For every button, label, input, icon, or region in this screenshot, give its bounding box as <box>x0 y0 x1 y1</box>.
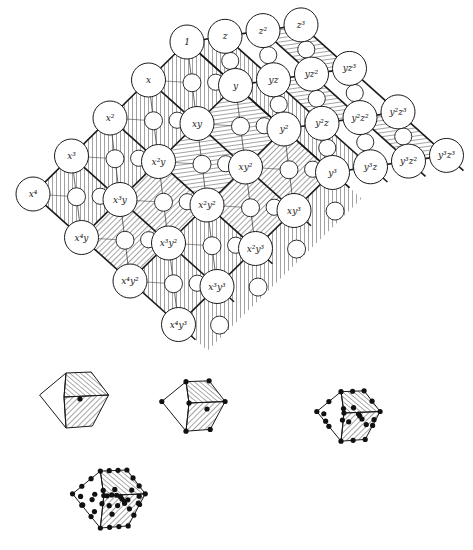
lattice-dot <box>186 400 191 405</box>
node-label: x²y³ <box>247 244 265 254</box>
monomial-node: x³ <box>55 139 89 173</box>
small-node <box>270 96 287 113</box>
lattice-dot <box>109 492 114 497</box>
lattice-dot <box>204 406 209 411</box>
monomial-node: y²z² <box>343 101 377 135</box>
lattice-dot <box>107 525 112 530</box>
monomial-node: x²y³ <box>239 232 273 266</box>
lattice-dot <box>105 493 110 498</box>
small-node <box>68 188 86 206</box>
small-node <box>155 193 173 211</box>
node-label: x³y² <box>160 238 178 248</box>
monomial-node: y²z³ <box>381 95 415 129</box>
monomial-node: yz³ <box>333 51 367 85</box>
node-label: y³z² <box>399 156 417 166</box>
lattice-dot <box>70 491 75 496</box>
face-right <box>64 395 109 428</box>
zonotope-4 <box>70 467 148 530</box>
node-label: x²y² <box>198 200 216 210</box>
face-top <box>64 372 109 397</box>
lattice-dot <box>130 475 135 480</box>
small-node <box>211 316 229 334</box>
lattice-dot <box>356 411 361 416</box>
small-node <box>183 74 201 92</box>
node-label: z <box>222 31 228 41</box>
node-label: x⁴y³ <box>170 320 188 330</box>
node-label: xy³ <box>287 206 301 216</box>
node-label: xy² <box>239 162 253 172</box>
lattice-dot <box>323 419 328 424</box>
monomial-node: y³z² <box>392 144 426 178</box>
lattice-dot <box>88 514 93 519</box>
lattice-dot <box>371 417 376 422</box>
lattice-dot <box>116 524 121 529</box>
monomial-node: xy² <box>229 150 263 184</box>
node-label: y³z³ <box>437 150 455 160</box>
face-top <box>100 470 145 496</box>
lattice-dot <box>364 422 369 427</box>
lattice-dot <box>126 523 131 528</box>
lattice-dot <box>124 467 129 472</box>
node-label: x⁴y <box>75 233 90 243</box>
small-node <box>222 52 239 69</box>
small-node <box>288 240 306 258</box>
node-label: x³ <box>67 151 76 161</box>
monomial-node: x³y³ <box>200 270 234 304</box>
monomial-node: y <box>219 69 253 103</box>
lattice-dot <box>351 438 356 443</box>
lattice-dot <box>99 501 104 506</box>
lattice-dot <box>363 437 368 442</box>
lattice-dot <box>159 399 164 404</box>
node-label: y² <box>279 124 289 134</box>
lattice-dot <box>183 379 188 384</box>
monomial-node: x²y <box>142 145 176 179</box>
lattice-dot <box>351 405 356 410</box>
lattice-dot <box>183 429 188 434</box>
monomial-node: x³y² <box>152 226 186 260</box>
monomial-node: y² <box>267 112 301 146</box>
lattice-dot <box>79 484 84 489</box>
node-label: x²y <box>152 157 167 167</box>
lattice-dot <box>208 427 213 432</box>
node-label: y³z <box>363 162 378 172</box>
node-label: y²z² <box>350 113 368 123</box>
monomial-node: x² <box>93 101 127 135</box>
lattice-dot <box>107 468 112 473</box>
lattice-dot <box>98 468 103 473</box>
monomial-node: y³z³ <box>430 138 464 172</box>
small-node <box>193 155 211 173</box>
lattice-dot <box>338 389 343 394</box>
node-label: y²z <box>314 118 329 128</box>
monomial-node: x⁴y³ <box>162 308 196 342</box>
monomial-node: 1 <box>170 25 204 59</box>
lattice-dot <box>314 409 319 414</box>
monomial-node: z <box>208 19 242 53</box>
lattice-dot <box>362 388 367 393</box>
lattice-dot <box>107 503 112 508</box>
monomial-node: y³z <box>354 150 388 184</box>
monomial-node: z³ <box>284 8 318 42</box>
lattice-dot <box>125 497 130 502</box>
monomial-node: yz <box>257 63 291 97</box>
lattice-dot <box>115 468 120 473</box>
lattice-dot <box>129 487 134 492</box>
small-node <box>326 202 344 220</box>
small-node <box>242 199 260 217</box>
face-left <box>73 471 104 528</box>
monomial-node: x⁴y² <box>113 264 147 298</box>
lattice-dot <box>78 494 83 499</box>
small-node <box>249 278 267 296</box>
lattice-dot <box>77 396 82 401</box>
zonotope-1 <box>40 372 109 428</box>
lattice-dot <box>137 483 142 488</box>
face-left <box>40 373 66 428</box>
lattice-dot <box>222 399 227 404</box>
monomial-node: x²y² <box>190 188 224 222</box>
node-label: y <box>232 81 239 91</box>
lattice-dot <box>115 503 120 508</box>
lattice-dot <box>350 389 355 394</box>
small-node <box>280 161 298 179</box>
lattice-dot <box>137 494 142 499</box>
lattice-dot <box>88 476 93 481</box>
lattice-dot <box>341 410 346 415</box>
